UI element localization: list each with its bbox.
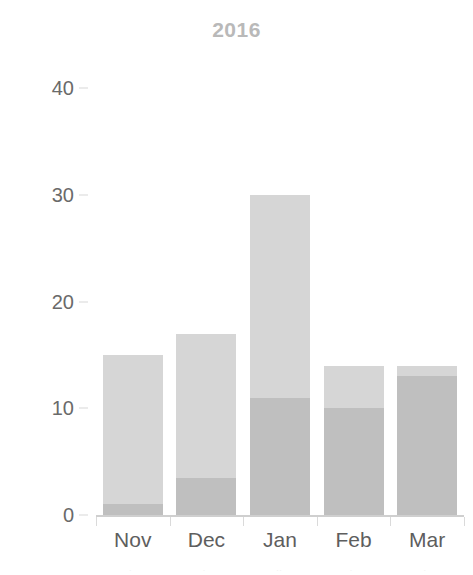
bar-segment-lower-segment-jan[interactable] — [250, 398, 310, 515]
bar-segment-upper-segment-nov[interactable] — [103, 355, 163, 504]
y-axis-tick-mark — [79, 194, 88, 195]
x-axis-tick-mark — [390, 517, 391, 526]
x-axis-tick-mark — [96, 517, 97, 526]
y-axis-tick-mark — [79, 515, 88, 516]
y-axis-tick-label: 20 — [52, 290, 74, 313]
y-axis-tick-label: 40 — [52, 77, 74, 100]
y-axis-tick-label: 10 — [52, 397, 74, 420]
x-axis-tick-label: Feb — [336, 528, 372, 552]
bar-segment-lower-segment-mar[interactable] — [397, 376, 457, 515]
bar-feb[interactable] — [324, 366, 384, 515]
x-axis-tick-mark — [243, 517, 244, 526]
artifact-blip: · — [423, 565, 426, 575]
x-axis-tick-label: Dec — [188, 528, 225, 552]
bar-dec[interactable] — [176, 334, 236, 515]
x-axis-tick-mark — [317, 517, 318, 526]
bar-segment-lower-segment-feb[interactable] — [324, 408, 384, 515]
bar-segment-upper-segment-jan[interactable] — [250, 195, 310, 398]
y-axis-tick-mark — [79, 301, 88, 302]
artifact-blip: · — [350, 565, 353, 575]
bar-segment-lower-segment-nov[interactable] — [103, 504, 163, 515]
x-axis-tick-label: Nov — [114, 528, 151, 552]
bar-nov[interactable] — [103, 355, 163, 515]
plot-area — [96, 88, 464, 515]
artifact-blip: · — [129, 565, 132, 575]
bar-segment-upper-segment-dec[interactable] — [176, 334, 236, 478]
artifact-blip: ·· — [276, 565, 282, 575]
y-axis-tick-label: 0 — [63, 504, 74, 527]
bar-chart: 2016 010203040 ······ NovDecJanFebMar — [0, 0, 473, 575]
bar-segment-lower-segment-dec[interactable] — [176, 478, 236, 515]
bar-mar[interactable] — [397, 366, 457, 515]
bar-segment-upper-segment-feb[interactable] — [324, 366, 384, 409]
bar-segment-upper-segment-mar[interactable] — [397, 366, 457, 377]
y-axis: 010203040 — [0, 0, 96, 575]
y-axis-tick-label: 30 — [52, 183, 74, 206]
x-axis-tick-mark — [464, 517, 465, 526]
bottom-edge-artifact: ······ — [0, 563, 473, 575]
x-axis-tick-label: Jan — [263, 528, 297, 552]
y-axis-tick-mark — [79, 408, 88, 409]
bar-jan[interactable] — [250, 195, 310, 515]
y-axis-tick-mark — [79, 88, 88, 89]
artifact-blip: · — [202, 565, 205, 575]
x-axis-line — [96, 515, 464, 517]
x-axis-tick-label: Mar — [409, 528, 445, 552]
x-axis-tick-mark — [170, 517, 171, 526]
